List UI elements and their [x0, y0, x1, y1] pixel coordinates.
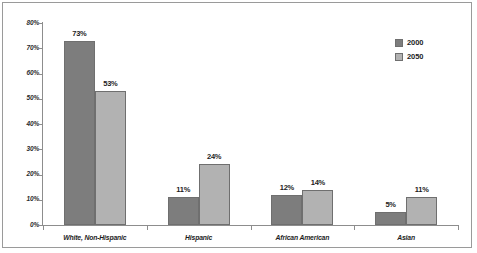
- x-axis-category-label: Asian: [354, 235, 458, 242]
- chart-legend: 20002050: [395, 39, 423, 61]
- y-axis-label-group: 80%70%60%50%40%30%20%10%0%: [3, 3, 39, 253]
- bar-value-label: 14%: [296, 179, 339, 187]
- y-axis-tick-label: 0%: [5, 222, 39, 229]
- legend-color-swatch: [395, 39, 403, 47]
- bar-value-label: 73%: [58, 30, 101, 38]
- x-axis-category-label: White, Non-Hispanic: [43, 235, 147, 242]
- bar-value-label: 5%: [369, 201, 412, 209]
- y-axis-tick-label: 40%: [5, 121, 39, 128]
- x-axis-category-label: Hispanic: [147, 235, 251, 242]
- bar-value-label: 11%: [162, 186, 205, 194]
- legend-item: 2050: [395, 53, 423, 61]
- bar-value-label: 11%: [400, 186, 443, 194]
- y-axis-tick-label: 60%: [5, 70, 39, 77]
- y-axis-tick-label: 50%: [5, 95, 39, 102]
- y-axis-tick-label: 10%: [5, 196, 39, 203]
- bar: [95, 91, 126, 225]
- x-axis-tick: [43, 225, 44, 230]
- bar: [199, 164, 230, 225]
- x-axis-tick: [251, 225, 252, 230]
- legend-color-swatch: [395, 53, 403, 61]
- x-axis-category-label: African American: [251, 235, 355, 242]
- legend-item: 2000: [395, 39, 423, 47]
- bar: [64, 41, 95, 225]
- x-axis-tick: [147, 225, 148, 230]
- x-axis-tick: [458, 225, 459, 230]
- bar: [168, 197, 199, 225]
- x-axis-tick: [354, 225, 355, 230]
- legend-label: 2000: [407, 39, 423, 47]
- bar: [302, 190, 333, 225]
- y-axis-tick-label: 30%: [5, 146, 39, 153]
- y-axis-tick-label: 70%: [5, 45, 39, 52]
- bar: [375, 212, 406, 225]
- bar-value-label: 24%: [193, 153, 236, 161]
- bar-value-label: 53%: [89, 80, 132, 88]
- y-axis-tick-label: 20%: [5, 171, 39, 178]
- bar: [271, 195, 302, 225]
- chart-frame: 80%70%60%50%40%30%20%10%0% 73%53%11%24%1…: [2, 2, 472, 248]
- y-axis-tick-label: 80%: [5, 20, 39, 27]
- legend-label: 2050: [407, 53, 423, 61]
